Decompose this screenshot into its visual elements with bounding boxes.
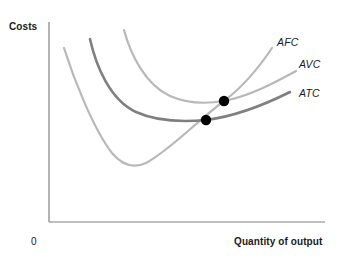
- x-axis-title: Quantity of output: [234, 236, 322, 247]
- avc-curve-label: AVC: [299, 58, 321, 70]
- afc-atc-intersection-marker: [201, 115, 211, 125]
- afc-curve: [64, 48, 272, 166]
- cost-curve-figure: Costs Quantity of output 0 AFC AVC ATC: [0, 0, 338, 262]
- avc-curve: [124, 30, 296, 103]
- atc-curve: [90, 39, 290, 121]
- y-axis-title: Costs: [9, 21, 37, 32]
- atc-curve-label: ATC: [299, 87, 320, 99]
- origin-label: 0: [31, 236, 37, 247]
- afc-avc-intersection-marker: [219, 96, 229, 106]
- afc-curve-label: AFC: [277, 36, 299, 48]
